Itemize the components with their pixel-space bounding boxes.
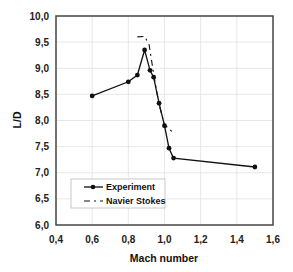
chart: 6,06,57,07,58,08,59,09,510,0 0,40,60,81,… — [0, 0, 293, 272]
experiment-data-point — [135, 73, 140, 78]
x-tick-label: 0,4 — [49, 234, 63, 245]
x-tick-label: 1,2 — [194, 234, 208, 245]
y-tick-label: 6,0 — [35, 220, 49, 231]
experiment-data-point — [171, 156, 176, 161]
x-tick-label: 1,0 — [158, 234, 172, 245]
y-tick-label: 10,0 — [30, 11, 50, 22]
legend: Experiment Navier Stokes — [71, 179, 166, 208]
experiment-data-point — [148, 68, 153, 73]
legend-experiment-marker — [91, 185, 96, 190]
legend-navier-stokes-label: Navier Stokes — [106, 196, 166, 206]
experiment-data-point — [126, 79, 131, 84]
legend-experiment-label: Experiment — [106, 182, 155, 192]
y-tick-label: 8,5 — [35, 89, 49, 100]
y-tick-label: 6,5 — [35, 193, 49, 204]
x-tick-label: 1,4 — [230, 234, 244, 245]
x-tick-label: 1,6 — [266, 234, 280, 245]
experiment-data-point — [90, 94, 95, 99]
y-tick-label: 8,0 — [35, 115, 49, 126]
y-tick-label: 7,5 — [35, 141, 49, 152]
y-tick-label: 9,5 — [35, 37, 49, 48]
x-tick-label: 0,8 — [121, 234, 135, 245]
x-tick-label: 0,6 — [85, 234, 99, 245]
x-axis-ticks: 0,40,60,81,01,21,41,6 — [49, 234, 280, 245]
y-axis-ticks: 6,06,57,07,58,08,59,09,510,0 — [30, 11, 50, 231]
x-axis-label: Mach number — [130, 252, 198, 264]
experiment-data-point — [167, 146, 172, 151]
y-tick-label: 9,0 — [35, 63, 49, 74]
experiment-line — [92, 50, 255, 167]
y-axis-label: L/D — [11, 111, 23, 128]
experiment-data-point — [142, 48, 147, 53]
experiment-data-point — [151, 75, 156, 80]
experiment-data-point — [253, 165, 258, 170]
series-group — [90, 36, 258, 169]
y-tick-label: 7,0 — [35, 167, 49, 178]
